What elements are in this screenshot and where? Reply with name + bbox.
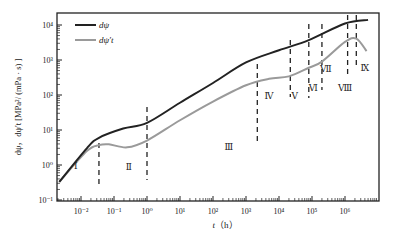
stage-label: Ⅶ <box>319 64 332 74</box>
legend-label-dpsi-t: dψ′t <box>99 35 114 45</box>
x-tick-label: 10⁵ <box>307 207 318 216</box>
series-line <box>59 38 366 182</box>
y-axis-label: dψ，dψ′t [MPa²/ (mPa · s) ] <box>13 59 23 156</box>
y-tick-label: 10¹ <box>43 126 54 135</box>
stage-label: Ⅷ <box>337 83 352 93</box>
stage-label: Ⅸ <box>361 63 370 73</box>
stage-label: Ⅱ <box>126 162 132 172</box>
y-tick-label: 10⁰ <box>42 161 53 170</box>
legend: dψ dψ′t <box>75 20 114 45</box>
y-tick-label: 10² <box>43 91 54 100</box>
stage-label: Ⅰ <box>74 161 78 171</box>
x-tick-label: 10² <box>208 207 219 216</box>
x-tick-label: 10³ <box>241 207 252 216</box>
legend-label-dpsi: dψ <box>99 20 110 30</box>
x-tick-label: 10⁻¹ <box>107 207 122 216</box>
y-tick-label: 10⁴ <box>42 21 53 30</box>
stage-label: Ⅳ <box>265 91 275 101</box>
x-axis-label: t（h） <box>212 220 237 230</box>
x-tick-label: 10¹ <box>175 207 186 216</box>
y-tick-label: 10³ <box>43 56 54 65</box>
x-tick-label: 10⁻² <box>74 207 89 216</box>
y-tick-label: 10⁻¹ <box>38 196 53 205</box>
x-tick-label: 10⁰ <box>141 207 152 216</box>
stage-dividers <box>99 15 356 188</box>
stage-label: Ⅴ <box>290 91 298 101</box>
x-tick-label: 10⁴ <box>274 207 285 216</box>
x-axis: 10⁻²10⁻¹10⁰10¹10²10³10⁴10⁵10⁶ <box>58 196 377 216</box>
stage-labels: ⅠⅡⅢⅣⅤⅥⅦⅧⅨ <box>74 63 369 173</box>
x-tick-label: 10⁶ <box>340 207 351 216</box>
stage-label: Ⅲ <box>224 142 233 152</box>
y-axis: 10⁻¹10⁰10¹10²10³10⁴ <box>38 21 62 205</box>
chart: 10⁻¹10⁰10¹10²10³10⁴ 10⁻²10⁻¹10⁰10¹10²10³… <box>0 0 395 247</box>
stage-label: Ⅵ <box>308 83 318 93</box>
